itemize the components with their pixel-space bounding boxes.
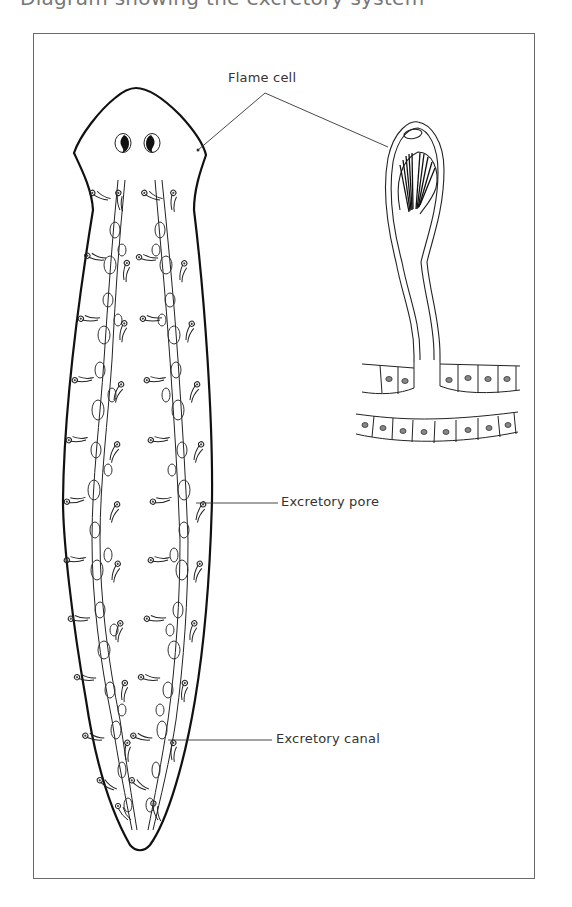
epithelium-lower-nuclei (362, 423, 511, 435)
cilia-tuft (400, 153, 435, 212)
flame-cell-detail (386, 122, 444, 362)
planarian-diagram (0, 0, 572, 907)
label-flame-cell: Flame cell (228, 70, 296, 85)
label-excretory-canal: Excretory canal (276, 731, 380, 746)
label-excretory-pore: Excretory pore (281, 494, 379, 509)
epithelium-upper-nuclei (386, 376, 510, 384)
